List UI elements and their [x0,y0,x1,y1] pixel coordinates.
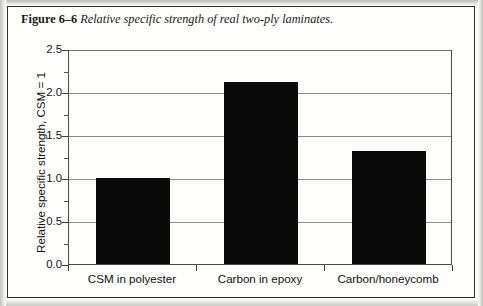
bar [224,82,298,264]
bar [352,151,426,264]
y-axis-tick-label: 1.0 [46,173,62,184]
x-axis-category-label: CSM in polyester [68,272,196,285]
x-axis-tick [324,265,325,271]
plot-area [68,50,452,265]
y-axis-title: Relative specific strength, CSM = 1 [34,53,47,273]
figure-page: Figure 6–6 Relative specific strength of… [0,0,483,306]
bar-chart: Relative specific strength, CSM = 1 0.00… [0,0,483,306]
x-axis-category-label: Carbon in epoxy [196,272,324,285]
x-axis-tick [196,265,197,271]
gridline [69,50,451,51]
x-axis-category-label: Carbon/honeycomb [324,272,452,285]
y-axis-tick-label: 2.5 [46,44,62,55]
bar [96,178,170,264]
y-axis-tick-label: 2.0 [46,87,62,98]
y-axis-tick-label: 1.5 [46,130,62,141]
y-axis-tick-label: 0.5 [46,216,62,227]
x-axis-tick [452,265,453,271]
x-axis-tick [68,265,69,271]
y-axis-tick-label: 0.0 [46,259,62,270]
